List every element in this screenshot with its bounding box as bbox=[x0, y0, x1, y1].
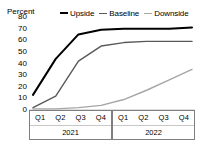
year-group-2021: Q1Q2Q3Q42021 bbox=[29, 110, 112, 140]
quarter-row: Q1Q2Q3Q4 bbox=[30, 111, 111, 126]
series-lines bbox=[29, 17, 195, 110]
x-tick-label: Q4 bbox=[174, 114, 194, 122]
quarter-row: Q1Q2Q3Q4 bbox=[113, 111, 194, 126]
y-tick-label: 80 bbox=[18, 13, 27, 21]
year-label: 2022 bbox=[113, 126, 194, 139]
y-tick-label: 10 bbox=[18, 94, 27, 102]
x-tick-label: Q1 bbox=[113, 114, 133, 122]
y-tick-label: 40 bbox=[18, 60, 27, 68]
x-tick-label: Q2 bbox=[133, 114, 153, 122]
y-tick-label: 50 bbox=[18, 48, 27, 56]
x-tick-label: Q1 bbox=[30, 114, 50, 122]
y-axis-tick-labels: 80706050403020100 bbox=[6, 17, 27, 110]
y-tick-label: 30 bbox=[18, 71, 27, 79]
x-tick-label: Q4 bbox=[91, 114, 111, 122]
year-group-2022: Q1Q2Q3Q42022 bbox=[112, 110, 195, 140]
x-axis-groups: Q1Q2Q3Q42021Q1Q2Q3Q42022 bbox=[29, 110, 195, 140]
line-chart: Percent UpsideBaselineDownside 807060504… bbox=[0, 0, 198, 153]
series-line-upside bbox=[33, 27, 192, 94]
plot-area bbox=[29, 17, 195, 110]
legend-swatch-icon bbox=[60, 12, 68, 14]
x-tick-label: Q3 bbox=[71, 114, 91, 122]
year-label: 2021 bbox=[30, 126, 111, 139]
series-line-baseline bbox=[33, 41, 192, 107]
y-tick-label: 70 bbox=[18, 25, 27, 33]
y-tick-label: 60 bbox=[18, 36, 27, 44]
x-tick-label: Q3 bbox=[154, 114, 174, 122]
legend-swatch-icon bbox=[144, 13, 152, 14]
y-tick-label: 20 bbox=[18, 83, 27, 91]
legend-swatch-icon bbox=[99, 13, 107, 14]
x-tick-label: Q2 bbox=[50, 114, 70, 122]
series-line-downside bbox=[33, 69, 192, 109]
y-tick-label: 0 bbox=[23, 106, 27, 114]
